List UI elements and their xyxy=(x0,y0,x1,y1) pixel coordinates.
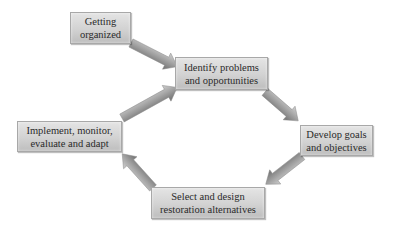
node-select-alternatives: Select and design restoration alternativ… xyxy=(151,187,265,219)
node-label-line2: and opportunities xyxy=(185,74,258,87)
restoration-cycle-diagram: Getting organized Identify problems and … xyxy=(0,0,393,229)
node-label-line2: organized xyxy=(80,28,121,41)
node-label-line1: Implement, monitor, xyxy=(26,124,112,137)
node-label-line2: evaluate and adapt xyxy=(30,137,108,150)
node-getting-organized: Getting organized xyxy=(70,12,131,44)
node-develop-goals: Develop goals and objectives xyxy=(300,125,373,156)
arrow-right-down-icon xyxy=(127,35,182,75)
node-label-line2: restoration alternatives xyxy=(160,203,256,216)
node-label-line1: Select and design xyxy=(171,190,244,203)
node-label-line1: Identify problems xyxy=(184,61,259,74)
node-label-line1: Getting xyxy=(85,15,117,28)
node-label-line2: and objectives xyxy=(306,141,366,154)
node-label-line1: Develop goals xyxy=(306,128,366,141)
arrow-right-up-icon xyxy=(118,80,182,126)
node-implement-monitor: Implement, monitor, evaluate and adapt xyxy=(17,121,122,152)
node-identify-problems: Identify problems and opportunities xyxy=(175,57,268,90)
arrow-right-down-icon xyxy=(259,85,304,127)
